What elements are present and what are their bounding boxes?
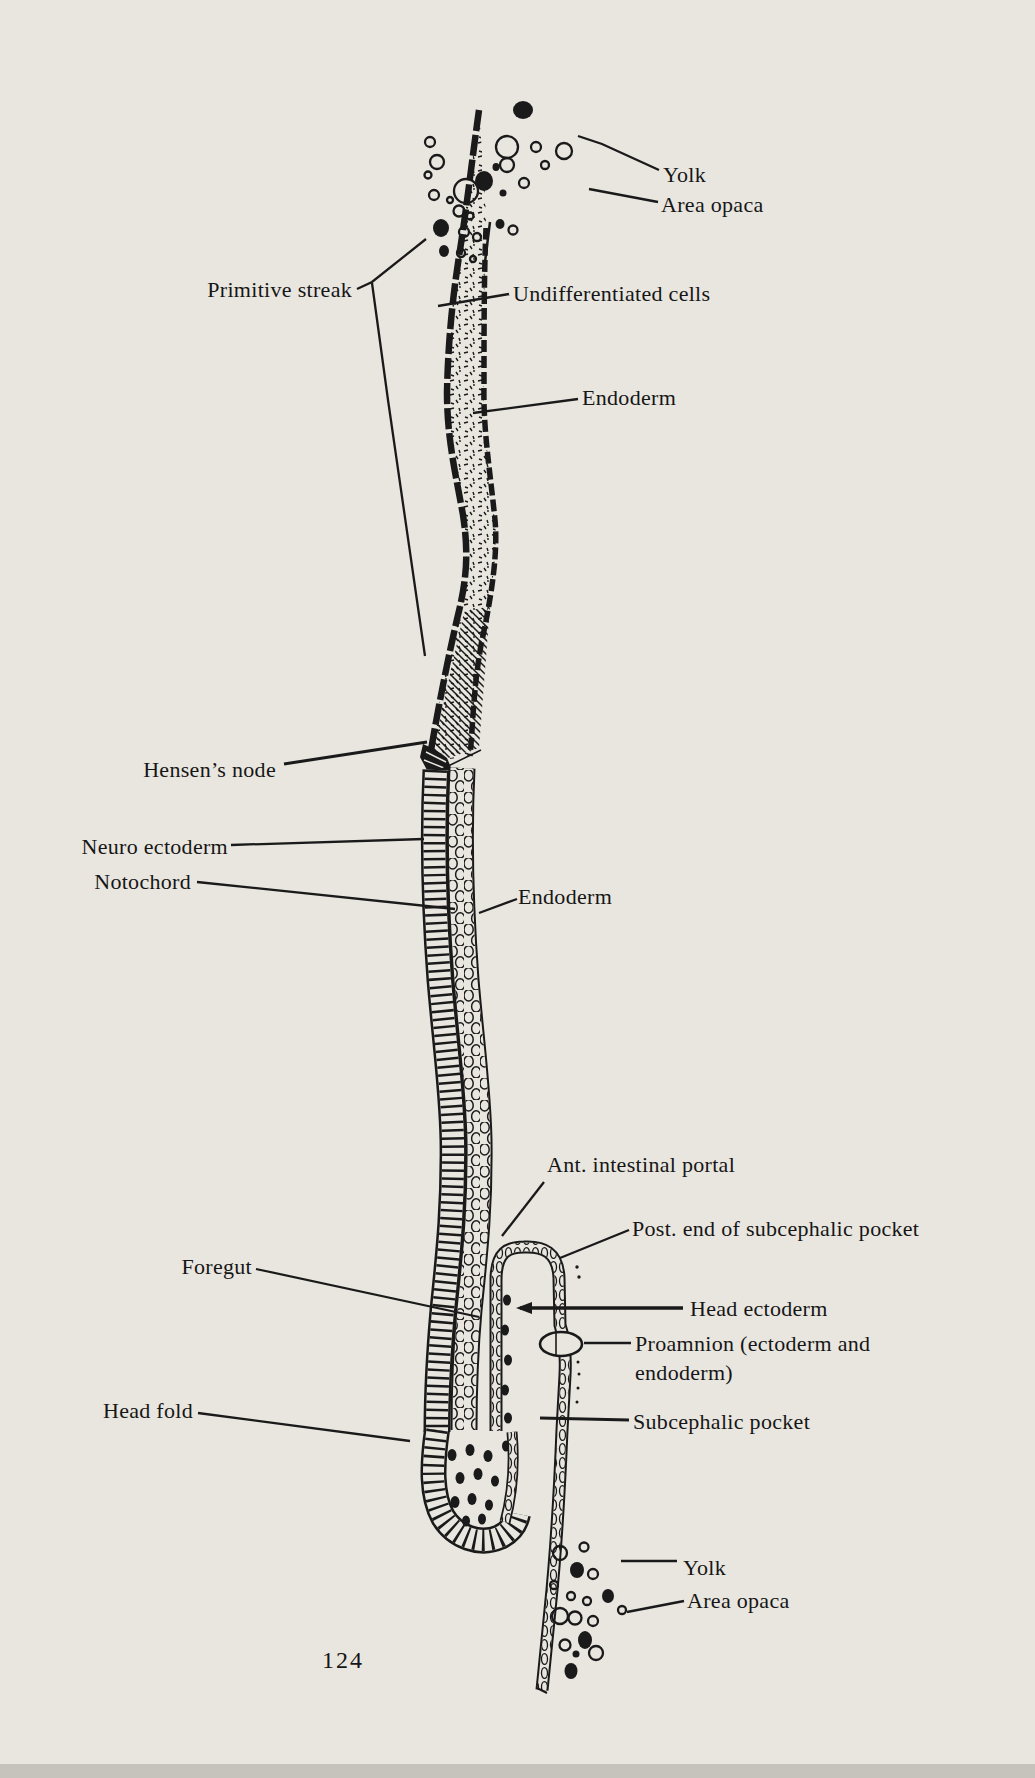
leader-endoderm-upper xyxy=(473,399,578,413)
leader-ant-intestinal-portal xyxy=(502,1182,544,1236)
yolk-granules-top xyxy=(425,101,573,262)
leader-area-opaca-bottom xyxy=(627,1601,684,1612)
label-primitive-streak: Primitive streak xyxy=(207,277,352,302)
label-endoderm-lower: Endoderm xyxy=(518,884,612,909)
embryo-sagittal-section-diagram: Yolk Area opaca Primitive streak Undiffe… xyxy=(0,0,1035,1778)
label-undifferentiated-cells: Undifferentiated cells xyxy=(513,281,710,306)
label-neuro-ectoderm: Neuro ectoderm xyxy=(81,834,228,859)
label-ant-intestinal-portal: Ant. intestinal portal xyxy=(547,1152,735,1177)
label-endoderm-upper: Endoderm xyxy=(582,385,676,410)
label-proamnion-line1: Proamnion (ectoderm and xyxy=(635,1331,870,1356)
leader-area-opaca-top xyxy=(589,189,658,202)
label-yolk-bottom: Yolk xyxy=(683,1555,726,1580)
label-foregut: Foregut xyxy=(181,1254,252,1279)
label-area-opaca-top: Area opaca xyxy=(661,192,764,217)
scan-edge-shadow xyxy=(0,1764,1035,1778)
label-notochord: Notochord xyxy=(94,869,191,894)
leader-yolk-top xyxy=(578,136,659,170)
label-yolk-top: Yolk xyxy=(663,162,706,187)
label-area-opaca-bottom: Area opaca xyxy=(687,1588,790,1613)
leader-primitive-streak-lower xyxy=(372,283,425,656)
page-number: 124 xyxy=(322,1647,364,1673)
leader-subcephalic-pocket xyxy=(540,1418,629,1420)
leader-neuro-ectoderm xyxy=(231,839,424,845)
label-subcephalic-pocket: Subcephalic pocket xyxy=(633,1409,810,1434)
label-head-ectoderm: Head ectoderm xyxy=(690,1296,828,1321)
leader-head-fold xyxy=(198,1413,410,1441)
cell-dots-foregut xyxy=(501,1295,512,1452)
embryo-drawing xyxy=(0,101,1035,1778)
label-proamnion-line2: endoderm) xyxy=(635,1360,733,1385)
yolk-granules-bottom xyxy=(550,1543,626,1680)
label-head-fold: Head fold xyxy=(103,1398,193,1423)
leader-hensens-node xyxy=(284,742,427,764)
leader-head-ectoderm-arrow xyxy=(516,1302,532,1314)
figure-labels: Yolk Area opaca Primitive streak Undiffe… xyxy=(81,162,919,1673)
label-hensens-node: Hensen’s node xyxy=(143,757,276,782)
leader-primitive-streak-upper xyxy=(357,239,426,289)
leader-endoderm-lower xyxy=(479,899,517,913)
book-page: Yolk Area opaca Primitive streak Undiffe… xyxy=(0,0,1035,1778)
label-post-end-subcephalic-pocket: Post. end of subcephalic pocket xyxy=(632,1216,919,1241)
leader-notochord xyxy=(197,882,455,909)
leader-post-end-subcephalic xyxy=(560,1230,629,1258)
proamnion-bulge xyxy=(540,1332,582,1356)
